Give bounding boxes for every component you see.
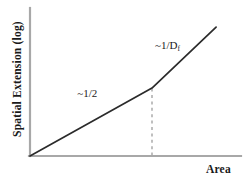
slope-annotation-high: ~1/Df [155, 39, 180, 51]
chart-figure: Spatial Extension (log) Area ~1/2 ~1/Df [0, 0, 246, 180]
slope-annotation-low: ~1/2 [77, 87, 97, 99]
plot-canvas [0, 0, 246, 180]
data-curve [30, 27, 216, 156]
slope-high-text: ~1/D [155, 39, 177, 51]
x-axis-label: Area [206, 163, 231, 175]
slope-high-subscript: f [177, 44, 180, 53]
y-axis-label: Spatial Extension (log) [11, 9, 23, 149]
slope-low-text: ~1/2 [77, 87, 97, 99]
